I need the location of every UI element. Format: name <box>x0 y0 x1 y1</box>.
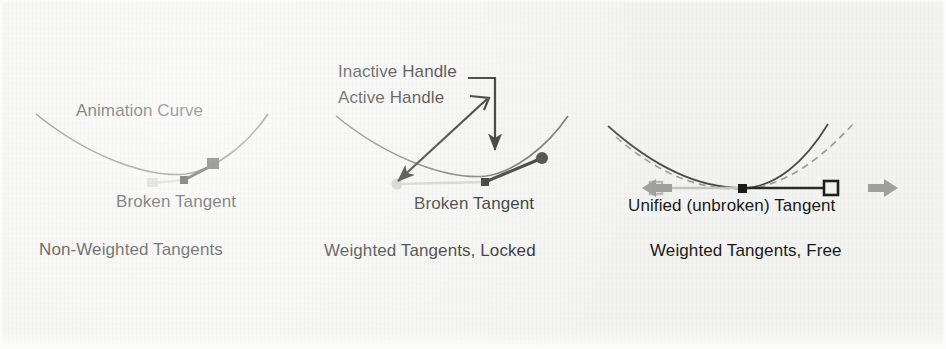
inactive-dot-handle[interactable] <box>392 179 403 190</box>
diagram-vector-layer <box>0 0 946 349</box>
panel-weighted-free <box>608 124 898 197</box>
active-dot-handle[interactable] <box>536 152 548 164</box>
broken-tangent-label-panel-1: Broken Tangent <box>116 192 236 212</box>
animation-curve-path <box>336 116 568 177</box>
keyframe-point[interactable] <box>481 178 489 186</box>
callout-hook-active-handle <box>470 96 489 110</box>
caption-weighted-tangents-free: Weighted Tangents, Free <box>650 241 842 261</box>
callout-leader-active-handle <box>398 99 487 181</box>
animation-curve-path <box>608 124 828 188</box>
keyframe-point[interactable] <box>180 176 188 184</box>
keyframe-point[interactable] <box>738 184 747 193</box>
inactive-square-handle[interactable] <box>147 178 158 187</box>
active-square-handle[interactable] <box>207 158 219 169</box>
callout-label-inactive-handle: Inactive Handle <box>338 62 457 82</box>
active-tangent-line <box>485 159 540 182</box>
broken-tangent-label-panel-2: Broken Tangent <box>414 194 534 214</box>
callout-label-active-handle: Active Handle <box>338 88 444 108</box>
caption-weighted-tangents-locked: Weighted Tangents, Locked <box>324 241 536 261</box>
panel-non-weighted <box>36 114 268 187</box>
inactive-tangent-line <box>398 182 485 184</box>
alternate-curve-dashed-path <box>616 124 853 189</box>
active-open-square-handle[interactable] <box>824 181 838 195</box>
figure-canvas: Animation Curve Broken Tangent Non-Weigh… <box>0 0 946 349</box>
arrow-right-icon[interactable] <box>868 179 898 197</box>
animation-curve-label: Animation Curve <box>76 101 203 121</box>
unified-tangent-label: Unified (unbroken) Tangent <box>628 196 835 216</box>
animation-curve-path <box>36 114 268 175</box>
caption-non-weighted-tangents: Non-Weighted Tangents <box>39 240 223 260</box>
